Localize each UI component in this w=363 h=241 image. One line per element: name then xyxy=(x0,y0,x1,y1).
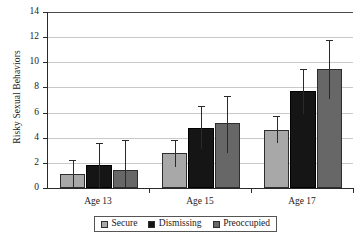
error-bar-cap-upper xyxy=(300,69,307,70)
error-bar xyxy=(303,69,304,114)
x-tick-label: Age 15 xyxy=(160,196,240,206)
error-bar-cap-upper xyxy=(224,96,231,97)
error-bar-cap-upper xyxy=(273,116,280,117)
y-tick-label: 0 xyxy=(17,183,39,193)
error-bar-cap-upper xyxy=(326,40,333,41)
error-bar-cap-upper xyxy=(198,106,205,107)
error-bar xyxy=(227,96,228,154)
y-tick-label: 10 xyxy=(17,57,39,67)
error-bar xyxy=(277,116,278,143)
error-bar-cap-upper xyxy=(171,140,178,141)
error-bar xyxy=(125,140,126,188)
y-tick-label: 2 xyxy=(17,158,39,168)
bar-groups xyxy=(47,12,353,188)
x-axis-line xyxy=(47,188,353,189)
error-bar-cap-upper xyxy=(122,140,129,141)
legend-label-dismissing: Dismissing xyxy=(159,219,202,229)
x-tick-label: Age 17 xyxy=(262,196,342,206)
bar-group xyxy=(251,12,353,188)
error-bar xyxy=(201,106,202,149)
legend-item-secure[interactable]: Secure xyxy=(101,219,137,229)
chart-figure: Risky Sexual Behaviors 02468101214 Age 1… xyxy=(0,0,363,241)
x-tick-label: Age 13 xyxy=(58,196,138,206)
legend-label-secure: Secure xyxy=(112,219,138,229)
error-bar-cap-upper xyxy=(69,160,76,161)
chart-legend: Secure Dismissing Preoccupied xyxy=(94,216,277,232)
error-bar xyxy=(99,143,100,188)
x-tick-mark xyxy=(251,188,252,193)
legend-item-dismissing[interactable]: Dismissing xyxy=(148,219,201,229)
y-tick-label: 6 xyxy=(17,108,39,118)
error-bar xyxy=(175,140,176,168)
legend-swatch-secure-icon xyxy=(101,221,108,228)
legend-label-preoccupied: Preoccupied xyxy=(223,219,270,229)
legend-item-preoccupied[interactable]: Preoccupied xyxy=(213,219,270,229)
x-tick-mark xyxy=(353,188,354,193)
legend-swatch-preoccupied-icon xyxy=(213,221,220,228)
y-tick-label: 12 xyxy=(17,32,39,42)
error-bar-cap-upper xyxy=(96,143,103,144)
x-tick-mark xyxy=(149,188,150,193)
y-tick-label: 8 xyxy=(17,82,39,92)
error-bar xyxy=(73,160,74,187)
error-bar xyxy=(329,40,330,98)
y-tick-label: 4 xyxy=(17,133,39,143)
bar-group xyxy=(149,12,251,188)
legend-swatch-dismissing-icon xyxy=(148,221,155,228)
bar-group xyxy=(47,12,149,188)
y-tick-label: 14 xyxy=(17,7,39,17)
